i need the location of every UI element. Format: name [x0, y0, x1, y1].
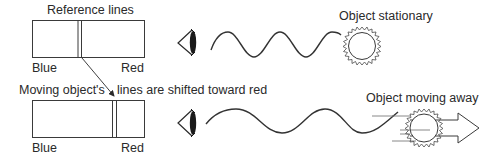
red-label-bottom: Red	[121, 142, 144, 155]
reference-lines-title: Reference lines	[47, 4, 134, 17]
eye-icon	[178, 109, 196, 137]
light-wave-stationary	[211, 32, 341, 57]
object-moving-away-label: Object moving away	[366, 92, 479, 105]
shifted-lines-caption: lines are shifted toward red	[117, 84, 267, 97]
redshift-diagram: Reference lines Blue Red Object stationa…	[0, 0, 495, 160]
shifted-spectrum-box	[33, 101, 145, 138]
diagram-graphics	[0, 0, 495, 160]
eye-icon	[178, 29, 196, 56]
reference-spectrum-box	[33, 21, 145, 58]
blue-label-top: Blue	[32, 62, 57, 75]
blue-label-bottom: Blue	[32, 142, 57, 155]
moving-object-caption: Moving object's	[19, 84, 105, 97]
red-label-top: Red	[121, 62, 144, 75]
star-icon	[343, 27, 381, 65]
object-stationary-label: Object stationary	[339, 10, 433, 23]
light-wave-redshifted	[206, 109, 398, 133]
